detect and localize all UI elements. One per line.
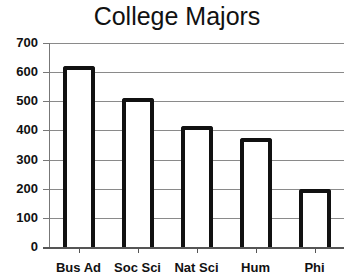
y-tick-label: 0 [0,239,38,254]
y-tick-label: 300 [0,152,38,167]
y-tick-label: 400 [0,122,38,137]
chart-title: College Majors [0,2,354,31]
y-axis [49,43,50,248]
x-axis [43,247,344,249]
y-tick-label: 500 [0,93,38,108]
gridline [49,43,344,44]
bar-bus-ad [63,66,95,247]
bar-soc-sci [122,98,154,247]
bar-nat-sci [181,126,213,247]
x-tick-label: Phi [280,260,350,275]
y-tick-label: 200 [0,181,38,196]
bar-phi [299,189,331,247]
bar-hum [240,138,272,247]
y-tick-label: 100 [0,210,38,225]
y-tick-label: 600 [0,64,38,79]
y-tick-label: 700 [0,35,38,50]
